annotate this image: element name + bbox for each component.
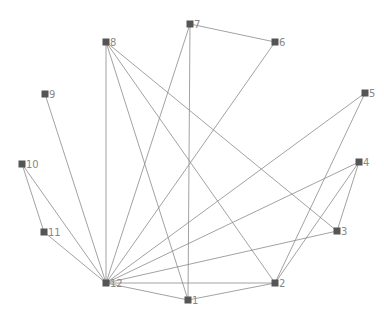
node-label: 2 <box>279 278 285 289</box>
node-8[interactable]: 8 <box>103 37 117 48</box>
node-label: 11 <box>48 227 61 238</box>
node-2[interactable]: 2 <box>272 278 286 289</box>
node-label: 4 <box>363 157 369 168</box>
node-square-icon[interactable] <box>41 229 48 236</box>
edge-2-5 <box>275 93 365 283</box>
node-11[interactable]: 11 <box>41 227 61 238</box>
network-graph: 123456789101112 <box>0 0 384 319</box>
node-5[interactable]: 5 <box>362 88 376 99</box>
node-square-icon[interactable] <box>103 280 110 287</box>
node-label: 8 <box>110 37 116 48</box>
node-label: 7 <box>194 19 200 30</box>
node-6[interactable]: 6 <box>272 37 286 48</box>
node-layer: 123456789101112 <box>19 19 376 306</box>
edge-layer <box>22 24 365 300</box>
node-label: 9 <box>49 89 55 100</box>
node-label: 6 <box>279 37 285 48</box>
node-3[interactable]: 3 <box>334 226 348 237</box>
node-square-icon[interactable] <box>103 39 110 46</box>
edge-12-5 <box>106 93 365 283</box>
edge-7-6 <box>190 24 275 42</box>
edge-12-7 <box>106 24 190 283</box>
node-square-icon[interactable] <box>356 159 363 166</box>
node-label: 3 <box>341 226 347 237</box>
node-10[interactable]: 10 <box>19 159 39 170</box>
edge-10-11 <box>22 164 44 232</box>
node-square-icon[interactable] <box>334 228 341 235</box>
node-label: 12 <box>110 278 123 289</box>
node-9[interactable]: 9 <box>42 89 56 100</box>
node-square-icon[interactable] <box>362 90 369 97</box>
node-label: 1 <box>192 295 198 306</box>
edge-12-4 <box>106 162 359 283</box>
edge-3-4 <box>337 162 359 231</box>
node-square-icon[interactable] <box>272 280 279 287</box>
edge-12-3 <box>106 231 337 283</box>
edge-12-9 <box>45 94 106 283</box>
node-label: 5 <box>369 88 375 99</box>
node-square-icon[interactable] <box>42 91 49 98</box>
node-label: 10 <box>26 159 39 170</box>
node-12[interactable]: 12 <box>103 278 123 289</box>
edge-10-12 <box>22 164 106 283</box>
node-square-icon[interactable] <box>187 21 194 28</box>
edge-2-4 <box>275 162 359 283</box>
node-square-icon[interactable] <box>272 39 279 46</box>
edge-1-2 <box>188 283 275 300</box>
edge-8-1 <box>106 42 188 300</box>
node-square-icon[interactable] <box>19 161 26 168</box>
node-1[interactable]: 1 <box>185 295 199 306</box>
node-square-icon[interactable] <box>185 297 192 304</box>
edge-8-3 <box>106 42 337 231</box>
